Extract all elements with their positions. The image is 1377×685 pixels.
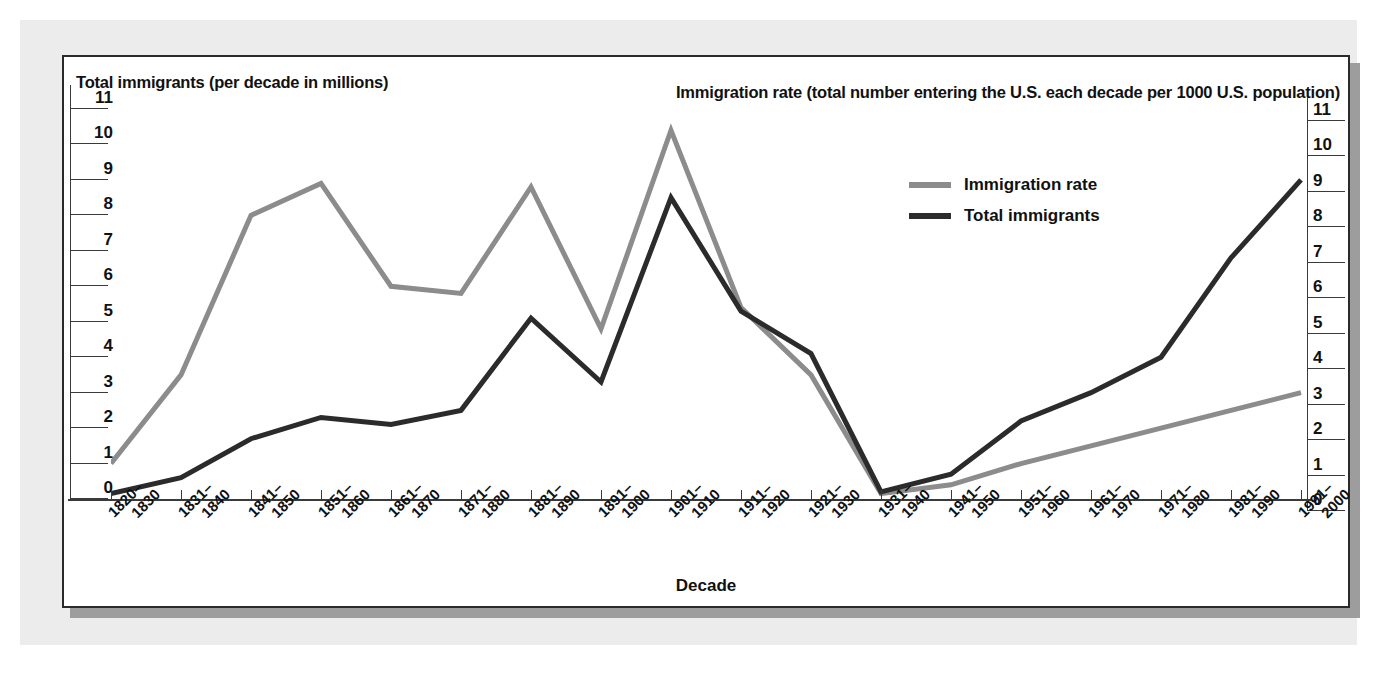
figure-root: Total immigrants (per decade in millions… (0, 0, 1377, 685)
plot-area (111, 109, 1301, 499)
left-y-tick-rule (70, 143, 108, 144)
right-y-tick-label: 6 (1313, 278, 1322, 295)
x-tick-mark (1021, 490, 1022, 499)
right-y-tick-rule (1307, 191, 1345, 192)
right-y-tick-rule (1307, 368, 1345, 369)
left-y-tick-rule (70, 427, 108, 428)
x-axis-title: Decade (64, 576, 1348, 596)
x-tick-mark (531, 490, 532, 499)
series-line-immigration-rate (111, 130, 1301, 493)
left-y-tick-label: 8 (104, 195, 113, 212)
series-canvas (111, 109, 1303, 505)
right-y-tick-rule (1307, 439, 1345, 440)
x-tick-mark (1231, 490, 1232, 499)
x-tick-mark (461, 490, 462, 499)
right-y-tick-label: 8 (1313, 207, 1322, 224)
x-tick-mark (741, 490, 742, 499)
x-tick-mark (1091, 490, 1092, 499)
left-y-tick-label: 7 (104, 231, 113, 248)
chart-panel: Total immigrants (per decade in millions… (62, 55, 1350, 608)
x-tick-mark (601, 490, 602, 499)
left-y-tick-label: 3 (104, 373, 113, 390)
right-y-tick-rule (1307, 120, 1345, 121)
left-y-tick-rule (70, 285, 108, 286)
right-axis-title: Immigration rate (total number entering … (676, 83, 1340, 102)
right-y-tick-label: 10 (1313, 136, 1332, 153)
x-tick-mark (391, 490, 392, 499)
left-y-tick-rule (70, 214, 108, 215)
left-y-tick-label: 4 (104, 337, 113, 354)
x-tick-mark (881, 490, 882, 499)
x-tick-mark (1301, 490, 1302, 499)
right-y-tick-label: 7 (1313, 243, 1322, 260)
x-tick-mark (251, 490, 252, 499)
x-tick-mark (671, 490, 672, 499)
left-y-tick: 11 (70, 57, 116, 109)
x-tick-mark (321, 490, 322, 499)
right-y-tick-rule (1307, 262, 1345, 263)
left-y-tick-rule (70, 321, 108, 322)
left-y-tick-label: 2 (104, 408, 113, 425)
right-y-tick-rule (1307, 404, 1345, 405)
x-tick-mark (111, 490, 112, 499)
left-y-tick-rule (70, 179, 108, 180)
left-y-tick-label: 9 (104, 160, 113, 177)
left-y-tick-label: 5 (104, 302, 113, 319)
left-y-tick-label: 6 (104, 266, 113, 283)
right-y-tick-label: 9 (1313, 172, 1322, 189)
right-y-tick-rule (1307, 226, 1345, 227)
right-y-tick-rule (1307, 333, 1345, 334)
x-tick-mark (1161, 490, 1162, 499)
right-y-tick-label: 2 (1313, 420, 1322, 437)
right-y-tick-label: 1 (1313, 456, 1322, 473)
x-tick-mark (811, 490, 812, 499)
left-y-tick-label: 11 (95, 89, 113, 106)
right-y-tick-rule (1307, 155, 1345, 156)
x-tick-mark (181, 490, 182, 499)
x-tick-mark (951, 490, 952, 499)
left-y-tick-rule (70, 250, 108, 251)
right-y-tick-label: 11 (1313, 101, 1331, 118)
series-line-total-immigrants (111, 180, 1301, 494)
left-y-tick-rule (70, 108, 108, 109)
right-y-tick-rule (1307, 297, 1345, 298)
left-y-tick-rule (70, 463, 108, 464)
left-y-tick-label: 10 (94, 124, 113, 141)
right-y-tick-label: 4 (1313, 349, 1322, 366)
left-y-tick-rule (70, 356, 108, 357)
right-y-tick-label: 5 (1313, 314, 1322, 331)
left-axis-title: Total immigrants (per decade in millions… (76, 73, 388, 92)
right-y-tick: 11 (1307, 57, 1353, 121)
left-y-tick-label: 1 (104, 444, 113, 461)
right-y-tick-label: 3 (1313, 385, 1322, 402)
left-y-tick-rule (70, 392, 108, 393)
right-y-tick-rule (1307, 475, 1345, 476)
